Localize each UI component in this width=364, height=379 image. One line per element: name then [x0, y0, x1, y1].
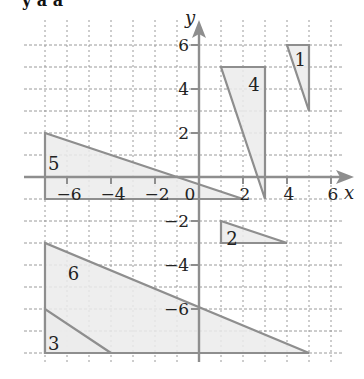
- coordinate-plane: −6−4−20246642−2−4−6xy 145263: [0, 0, 364, 379]
- x-tick-label: −6: [56, 184, 81, 204]
- shape-label-2: 2: [226, 228, 237, 249]
- y-axis-label: y: [184, 7, 196, 28]
- x-tick-label: 2: [240, 184, 251, 204]
- y-tick-label: 6: [178, 35, 189, 55]
- x-tick-label: 0: [185, 184, 196, 204]
- shape-label-6: 6: [68, 263, 79, 284]
- x-tick-label: −2: [144, 184, 169, 204]
- y-tick-label: −4: [164, 255, 189, 275]
- y-tick-label: −6: [164, 299, 189, 319]
- x-tick-label: 4: [284, 184, 295, 204]
- shape-label-4: 4: [248, 74, 259, 95]
- x-axis-label: x: [344, 182, 354, 203]
- y-tick-label: 2: [178, 123, 189, 143]
- y-tick-label: −2: [164, 211, 189, 231]
- x-tick-label: −4: [100, 184, 125, 204]
- shape-label-1: 1: [294, 49, 305, 70]
- shape-label-3: 3: [48, 333, 59, 354]
- shape-label-5: 5: [48, 153, 59, 174]
- y-tick-label: 4: [178, 79, 189, 99]
- x-tick-label: 6: [328, 184, 339, 204]
